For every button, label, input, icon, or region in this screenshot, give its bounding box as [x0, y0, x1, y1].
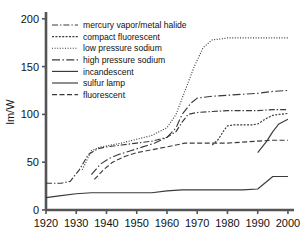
y-tick-label: 150	[21, 61, 39, 73]
x-tick-label: 1920	[34, 217, 58, 229]
series-line	[46, 110, 288, 184]
legend-label: low pressure sodium	[83, 43, 162, 53]
x-tick-label: 1980	[215, 217, 239, 229]
legend-label: sulfur lamp	[83, 78, 125, 88]
y-tick-label: 0	[33, 204, 39, 216]
legend-label: fluorescent	[83, 90, 126, 100]
series-line	[46, 177, 288, 198]
legend-label: compact fluorescent	[83, 32, 161, 42]
y-tick-label: 50	[27, 156, 39, 168]
x-tick-label: 1950	[124, 217, 148, 229]
y-tick-label: 100	[21, 108, 39, 120]
x-tick-label: 2000	[276, 217, 300, 229]
legend-label: mercury vapor/metal halide	[83, 20, 187, 30]
series-line	[258, 119, 288, 152]
y-axis-title: lm/W	[4, 99, 16, 125]
x-tick-label: 1970	[185, 217, 209, 229]
y-tick-label: 200	[21, 13, 39, 25]
x-tick-label: 1960	[155, 217, 179, 229]
legend-label: high pressure sodium	[83, 55, 165, 65]
x-tick-label: 1940	[94, 217, 118, 229]
x-tick-label: 1930	[64, 217, 88, 229]
series-line	[94, 140, 288, 179]
line-chart: 0501001502001920193019401950196019701980…	[0, 0, 302, 248]
chart-container: 0501001502001920193019401950196019701980…	[0, 0, 302, 248]
series-line	[91, 90, 288, 174]
x-tick-label: 1990	[245, 217, 269, 229]
legend-label: incandescent	[83, 67, 134, 77]
